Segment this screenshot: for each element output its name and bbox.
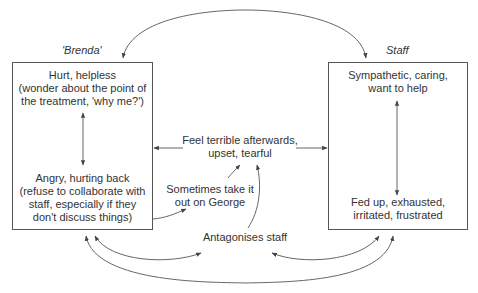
brenda-heading: 'Brenda' — [62, 44, 102, 56]
feel-terrible-node: Feel terrible afterwards, upset, tearful — [180, 134, 300, 160]
staff-sympathetic-caring: Sympathetic, caring, want to help — [328, 69, 468, 95]
staff-fed-up: Fed up, exhausted, irritated, frustrated — [328, 196, 468, 222]
brenda-angry-hurting-back: Angry, hurting back (refuse to collabora… — [12, 172, 153, 224]
take-it-out-node: Sometimes take it out on George — [155, 183, 265, 209]
staff-heading: Staff — [386, 44, 409, 56]
angry-to-george-arrow — [153, 209, 186, 219]
brenda-antagonises-arc — [95, 236, 201, 260]
top-arc-arrow — [123, 10, 366, 58]
brenda-hurt-helpless: Hurt, helpless (wonder about the point o… — [12, 69, 153, 108]
antagonises-staff-node: Antagonises staff — [190, 231, 300, 244]
george-to-feel-arrow — [228, 165, 240, 178]
